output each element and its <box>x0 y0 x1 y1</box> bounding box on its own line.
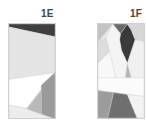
panel-label-1e: 1E <box>41 8 54 19</box>
mosaic-svg-1e <box>9 24 55 118</box>
mosaic-panel-1f <box>97 23 145 119</box>
mosaic-svg-1f <box>98 24 144 118</box>
panel-label-1f: 1F <box>130 8 142 19</box>
mosaic-panel-1e <box>8 23 56 119</box>
